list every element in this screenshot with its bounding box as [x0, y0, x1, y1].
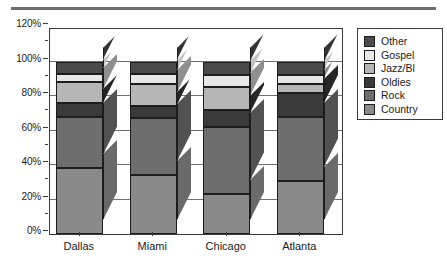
bar-segment-atlanta-oldies[interactable] — [277, 93, 324, 117]
y-axis-label-60: 60% — [22, 121, 41, 132]
x-axis-tick-dallas — [79, 232, 80, 236]
legend-item-other[interactable]: Other — [364, 35, 407, 48]
bar-segment-atlanta-country[interactable] — [277, 181, 324, 234]
bar-dallas[interactable] — [56, 27, 103, 234]
x-axis-label-dallas: Dallas — [63, 240, 94, 252]
y-axis-label-40: 40% — [22, 156, 41, 167]
bar-side-face-atlanta — [324, 13, 338, 234]
bar-segment-miami-jazzbl[interactable] — [130, 84, 177, 106]
legend-swatch-jazzbl — [364, 63, 375, 74]
bar-segment-chicago-other[interactable] — [203, 62, 250, 76]
bar-segment-dallas-jazzbl[interactable] — [56, 82, 103, 103]
y-axis-tick-100 — [43, 58, 48, 59]
bar-side-face-dallas — [103, 13, 117, 234]
top-divider-rule — [11, 7, 436, 10]
bar-miami[interactable] — [130, 27, 177, 234]
y-axis-minor-tick-10 — [45, 213, 48, 214]
bar-segment-atlanta-gospel[interactable] — [277, 75, 324, 84]
bar-side-segment-dallas-country — [103, 140, 117, 220]
y-axis-label-20: 20% — [22, 190, 41, 201]
x-axis-tick-chicago — [226, 232, 227, 236]
legend-label-jazzbl: Jazz/Bl — [381, 63, 415, 74]
legend-label-country: Country — [381, 104, 418, 115]
x-axis-label-atlanta: Atlanta — [282, 240, 316, 252]
y-axis-tick-120 — [43, 23, 48, 24]
legend-label-gospel: Gospel — [381, 50, 414, 61]
y-axis-minor-tick-110 — [45, 40, 48, 41]
bar-segment-miami-country[interactable] — [130, 175, 177, 234]
legend-item-gospel[interactable]: Gospel — [364, 49, 414, 62]
bar-side-face-miami — [177, 13, 191, 234]
legend-label-other: Other — [381, 36, 407, 47]
legend-swatch-oldies — [364, 77, 375, 88]
chart-legend: OtherGospelJazz/BlOldiesRockCountry — [357, 28, 443, 120]
bar-segment-chicago-rock[interactable] — [203, 127, 250, 194]
y-axis-tick-0 — [43, 230, 48, 231]
legend-swatch-other — [364, 36, 375, 47]
y-axis-minor-tick-30 — [45, 178, 48, 179]
y-axis-label-80: 80% — [22, 87, 41, 98]
x-axis-label-chicago: Chicago — [206, 240, 246, 252]
y-axis-label-0: 0% — [27, 225, 41, 236]
bar-segment-chicago-jazzbl[interactable] — [203, 87, 250, 109]
bar-chicago[interactable] — [203, 27, 250, 234]
bar-segment-chicago-oldies[interactable] — [203, 110, 250, 127]
x-axis-label-miami: Miami — [138, 240, 167, 252]
bar-segment-miami-rock[interactable] — [130, 118, 177, 175]
legend-item-rock[interactable]: Rock — [364, 89, 405, 102]
bar-segment-chicago-country[interactable] — [203, 194, 250, 234]
x-axis-tick-atlanta — [299, 232, 300, 236]
y-axis-minor-tick-90 — [45, 75, 48, 76]
legend-item-jazzbl[interactable]: Jazz/Bl — [364, 62, 415, 75]
bar-segment-dallas-oldies[interactable] — [56, 103, 103, 117]
bar-segment-chicago-gospel[interactable] — [203, 75, 250, 87]
bar-segment-dallas-country[interactable] — [56, 168, 103, 234]
bar-segment-atlanta-rock[interactable] — [277, 117, 324, 181]
legend-swatch-gospel — [364, 50, 375, 61]
y-axis-tick-20 — [43, 196, 48, 197]
bar-segment-miami-other[interactable] — [130, 62, 177, 74]
bar-segment-atlanta-jazzbl[interactable] — [277, 84, 324, 93]
bar-segment-miami-oldies[interactable] — [130, 106, 177, 118]
y-axis-minor-tick-70 — [45, 109, 48, 110]
bar-segment-dallas-gospel[interactable] — [56, 74, 103, 83]
y-axis: 0%20%40%60%80%100%120% — [0, 22, 48, 235]
bar-segment-dallas-other[interactable] — [56, 62, 103, 74]
y-axis-tick-60 — [43, 127, 48, 128]
bar-side-segment-atlanta-other — [324, 34, 338, 62]
bar-segment-dallas-rock[interactable] — [56, 117, 103, 169]
bar-segment-miami-gospel[interactable] — [130, 74, 177, 84]
bar-atlanta[interactable] — [277, 27, 324, 234]
y-axis-minor-tick-50 — [45, 144, 48, 145]
legend-swatch-rock — [364, 90, 375, 101]
legend-item-country[interactable]: Country — [364, 103, 418, 116]
legend-label-rock: Rock — [381, 90, 405, 101]
x-axis-tick-miami — [152, 232, 153, 236]
y-axis-label-100: 100% — [16, 52, 41, 63]
bar-side-segment-miami-country — [177, 147, 191, 220]
y-axis-label-120: 120% — [16, 18, 41, 29]
bar-segment-atlanta-other[interactable] — [277, 62, 324, 76]
y-axis-tick-40 — [43, 161, 48, 162]
legend-swatch-country — [364, 104, 375, 115]
plot-frame — [49, 28, 343, 235]
legend-label-oldies: Oldies — [381, 77, 411, 88]
y-axis-tick-80 — [43, 92, 48, 93]
chart-figure: 0%20%40%60%80%100%120% DallasMiamiChicag… — [0, 0, 447, 271]
legend-item-oldies[interactable]: Oldies — [364, 76, 411, 89]
bar-side-face-chicago — [250, 13, 264, 234]
